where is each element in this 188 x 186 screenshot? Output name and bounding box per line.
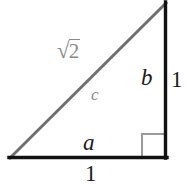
label-side-c: c (91, 86, 99, 103)
right-triangle-figure: a b c 1 1 √2 (0, 0, 188, 186)
label-side-a: a (83, 131, 95, 154)
label-hypotenuse-value: √2 (57, 39, 80, 62)
right-angle-marker-icon (142, 134, 166, 158)
label-bottom-length: 1 (85, 162, 97, 185)
sqrt-expression: √2 (57, 39, 80, 62)
label-right-length: 1 (171, 68, 183, 91)
label-side-b: b (141, 66, 153, 89)
radicand-value: 2 (69, 39, 81, 62)
